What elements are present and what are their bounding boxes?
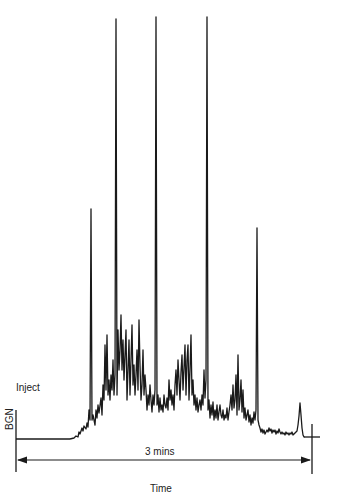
duration-label: 3 mins	[143, 446, 176, 457]
arrow-left-icon	[17, 457, 27, 464]
inject-label: Inject	[16, 382, 40, 393]
x-axis-label: Time	[150, 483, 172, 494]
chromatogram-plot	[0, 0, 338, 503]
bgn-label: BGN	[4, 408, 15, 430]
chromatogram-trace	[70, 17, 305, 439]
arrow-right-icon	[301, 457, 311, 464]
